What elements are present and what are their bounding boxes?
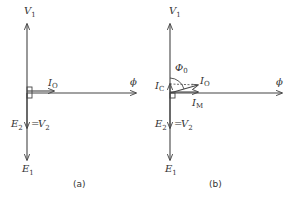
caption-b: (b)	[209, 179, 222, 189]
i0-label: IO	[47, 77, 58, 90]
e1-label: E1	[21, 163, 34, 177]
i0-label: IO	[199, 75, 210, 88]
phasor-diagrams: V1 IO ϕ E2 = V2 E1 (a) V1 Φ0 IC IO IM ϕ …	[0, 0, 291, 203]
v2-label: V2	[38, 118, 50, 132]
construction-line	[170, 84, 198, 85]
caption-a: (a)	[73, 179, 86, 189]
im-label: IM	[191, 97, 203, 110]
e2-label: E2	[10, 118, 23, 132]
ic-label: IC	[154, 80, 164, 93]
v2-label: V2	[181, 118, 193, 132]
e2-label: E2	[154, 118, 167, 132]
flux-label: ϕ	[276, 76, 283, 87]
v1-label: V1	[24, 5, 36, 19]
v1-label: V1	[169, 5, 181, 19]
flux-label: ϕ	[130, 76, 137, 87]
phi0-angle-arc	[170, 78, 184, 89]
phasor-diagram-b: V1 Φ0 IC IO IM ϕ E2 = V2 E1 (b)	[154, 5, 283, 189]
phasor-diagram-a: V1 IO ϕ E2 = V2 E1 (a)	[10, 5, 137, 189]
right-angle-marker	[170, 93, 175, 98]
e1-label: E1	[164, 163, 177, 177]
phi0-label: Φ0	[175, 62, 188, 75]
